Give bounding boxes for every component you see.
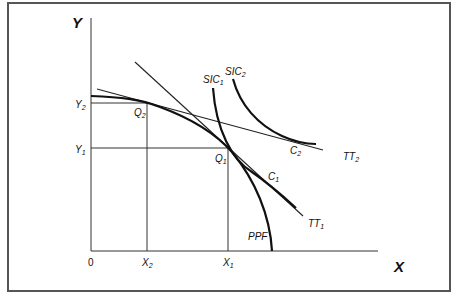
sic2-label: SIC2 bbox=[225, 66, 246, 78]
guide-q2 bbox=[91, 103, 147, 251]
x2-label: X2 bbox=[141, 257, 153, 269]
sic1-label: SIC1 bbox=[203, 74, 224, 86]
guide-q1 bbox=[91, 148, 228, 251]
tt2-label: TT2 bbox=[343, 151, 359, 163]
sic2-curve bbox=[233, 79, 316, 144]
trade-diagram: Y X 0 Y2 Y1 X2 X1 Q2 Q1 C1 C2 PPF SIC1 S… bbox=[0, 0, 456, 299]
ppf-curve bbox=[91, 96, 272, 251]
c2-label: C2 bbox=[290, 145, 301, 157]
y2-label: Y2 bbox=[75, 99, 86, 111]
c1-label: C1 bbox=[268, 171, 279, 183]
q1-label: Q1 bbox=[215, 153, 227, 165]
x1-label: X1 bbox=[222, 257, 234, 269]
y-axis-label: Y bbox=[72, 14, 84, 31]
y1-label: Y1 bbox=[75, 144, 86, 156]
tt1-label: TT1 bbox=[308, 218, 324, 230]
ppf-label: PPF bbox=[248, 231, 268, 242]
x-axis-label: X bbox=[393, 258, 405, 275]
origin-label: 0 bbox=[88, 257, 94, 268]
q2-label: Q2 bbox=[134, 107, 146, 119]
